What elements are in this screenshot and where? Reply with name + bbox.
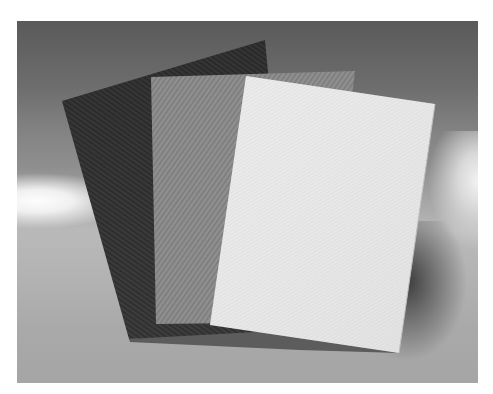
white-sheet-shading bbox=[210, 76, 435, 353]
product-photo bbox=[17, 21, 478, 383]
fabric-sheets bbox=[17, 21, 478, 383]
